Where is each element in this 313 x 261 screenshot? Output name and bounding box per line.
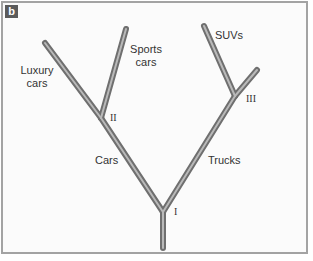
label-cars: Cars xyxy=(95,154,118,167)
label-trucks: Trucks xyxy=(208,154,241,167)
label-suvs: SUVs xyxy=(215,29,243,42)
node-label-2: II xyxy=(110,112,117,123)
label-luxury-line1: Luxury xyxy=(15,64,59,77)
node-label-1: I xyxy=(174,206,177,217)
label-sports-line1: Sports xyxy=(126,43,166,56)
node-label-3: III xyxy=(246,93,256,104)
evolutionary-tree xyxy=(0,0,313,261)
label-luxury-cars: Luxury cars xyxy=(15,64,59,90)
label-sports-line2: cars xyxy=(126,56,166,69)
label-sports-cars: Sports cars xyxy=(126,43,166,69)
label-luxury-line2: cars xyxy=(15,77,59,90)
